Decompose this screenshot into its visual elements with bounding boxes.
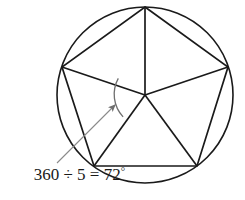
angle-equation-text: 360 ÷ 5 = 72 (34, 165, 121, 184)
degree-symbol: ° (121, 165, 125, 177)
spoke-to-lower-right (145, 95, 197, 166)
spoke-to-upper-right (145, 67, 228, 95)
geometry-diagram-svg: Regular pentagon inscribed in a circle w… (0, 0, 245, 200)
spoke-to-lower-left (94, 95, 145, 166)
spoke-to-upper-left (62, 67, 145, 95)
pentagon-circle-figure: Regular pentagon inscribed in a circle w… (0, 0, 245, 200)
central-angle-arc (114, 78, 123, 117)
